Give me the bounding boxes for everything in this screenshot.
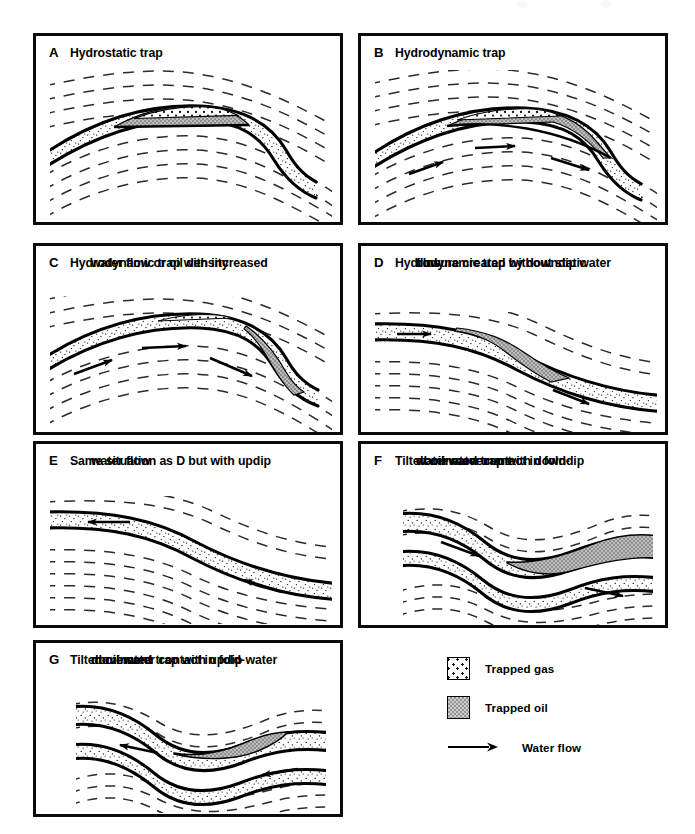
panel-b-artwork <box>375 70 657 222</box>
panel-b-caption-line-1: Hydrodynamic trap <box>395 46 505 60</box>
legend-label-trapped-oil: Trapped oil <box>485 701 548 714</box>
panel-b: BHydrodynamic trap <box>358 33 668 225</box>
panel-b-inner: BHydrodynamic trap <box>361 36 665 222</box>
panel-c-letter: C <box>49 255 70 271</box>
panel-e-caption: ESame situation as D but with updip wate… <box>49 453 332 469</box>
panel-c-inner: CHydrodynamic trap with increased water … <box>36 246 340 432</box>
panel-g-caption: GTilted oil-water contact in fold- domin… <box>49 652 332 668</box>
panel-d-letter: D <box>374 255 395 271</box>
panel-b-caption: BHydrodynamic trap <box>374 45 657 61</box>
panel-f-caption: FTilted oil-water contact in fold- domin… <box>374 453 657 469</box>
panel-e: ESame situation as D but with updip wate… <box>33 441 343 628</box>
panel-c-caption-line-2: water flow or oil density <box>49 255 332 271</box>
panel-c-artwork <box>50 296 332 432</box>
panel-g: GTilted oil-water contact in fold- domin… <box>33 640 343 817</box>
legend-item-water-flow: Water flow <box>447 734 581 760</box>
panel-c-caption: CHydrodynamic trap with increased water … <box>49 255 332 271</box>
panel-b-letter: B <box>374 45 395 61</box>
gas-swatch-icon <box>447 657 470 680</box>
arrow-icon <box>447 740 499 754</box>
panel-a: AHydrostatic trap <box>33 33 343 225</box>
panel-g-artwork <box>76 701 326 813</box>
panel-a-caption: AHydrostatic trap <box>49 45 332 61</box>
panel-e-inner: ESame situation as D but with updip wate… <box>36 444 340 625</box>
panel-a-inner: AHydrostatic trap <box>36 36 340 222</box>
panel-a-artwork <box>50 70 332 222</box>
panel-e-artwork <box>50 496 332 624</box>
legend-item-trapped-oil: Trapped oil <box>447 694 548 720</box>
legend: Trapped gas Trapped oil Water flow <box>447 655 687 765</box>
panel-f-inner: FTilted oil-water contact in fold- domin… <box>361 444 665 625</box>
scan-artifact <box>516 1 528 8</box>
scan-artifact <box>601 0 612 8</box>
legend-item-trapped-gas: Trapped gas <box>447 655 554 681</box>
oil-swatch-icon <box>447 696 470 719</box>
panel-g-inner: GTilted oil-water contact in fold- domin… <box>36 643 340 814</box>
panel-d-caption: DHydrodynamic trap without static closur… <box>374 255 657 271</box>
panel-d-inner: DHydrodynamic trap without static closur… <box>361 246 665 432</box>
panel-d: DHydrodynamic trap without static closur… <box>358 243 668 435</box>
panel-e-letter: E <box>49 453 70 469</box>
panel-g-letter: G <box>49 652 70 668</box>
panel-f: FTilted oil-water contact in fold- domin… <box>358 441 668 628</box>
panel-d-artwork <box>375 312 657 432</box>
legend-label-trapped-gas: Trapped gas <box>485 662 554 675</box>
panel-c: CHydrodynamic trap with increased water … <box>33 243 343 435</box>
panel-f-letter: F <box>374 453 395 469</box>
panel-f-artwork <box>403 506 653 625</box>
panel-a-caption-line-1: Hydrostatic trap <box>70 46 163 60</box>
figure-root: AHydrostatic trap <box>0 0 695 834</box>
legend-label-water-flow: Water flow <box>522 741 581 754</box>
panel-a-letter: A <box>49 45 70 61</box>
